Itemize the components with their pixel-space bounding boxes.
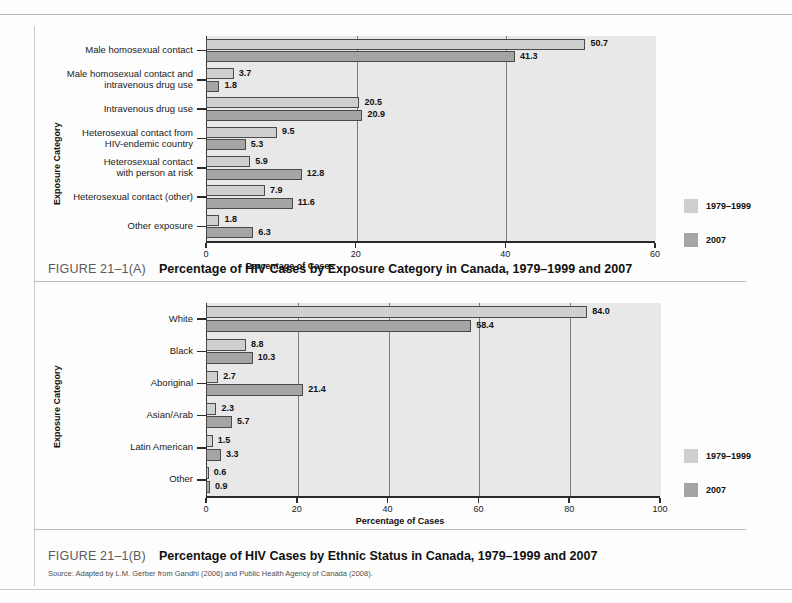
bar-value-figure-b-s0-c3: 2.3 bbox=[221, 403, 234, 413]
category-label-figure-b-0: White bbox=[46, 313, 193, 324]
gridline-60 bbox=[479, 303, 480, 496]
category-tick-figure-b-4 bbox=[197, 447, 206, 449]
figure-page: 50.73.720.59.55.97.91.841.31.820.95.312.… bbox=[0, 0, 792, 603]
bar-figure-b-s0-c1 bbox=[206, 339, 246, 351]
bar-value-figure-b-s0-c0: 84.0 bbox=[592, 306, 610, 316]
figure-b-caption: FIGURE 21–1(B)Percentage of HIV Cases by… bbox=[48, 546, 597, 564]
bar-figure-b-s1-c2 bbox=[206, 384, 303, 396]
figure-b-separator bbox=[34, 529, 746, 530]
category-tick-figure-b-5 bbox=[197, 479, 206, 481]
legend-label-figure-b-1: 2007 bbox=[706, 485, 726, 495]
bar-figure-b-s1-c4 bbox=[206, 449, 221, 461]
x-tick-figure-b-60 bbox=[478, 498, 480, 503]
x-axis-title-figure-b: Percentage of Cases bbox=[356, 516, 445, 526]
bar-value-figure-b-s0-c4: 1.5 bbox=[218, 435, 231, 445]
category-label-figure-b-1: Black bbox=[46, 345, 193, 356]
plot-area-figure-b bbox=[206, 303, 661, 496]
bar-value-figure-b-s1-c5: 0.9 bbox=[215, 481, 228, 491]
x-tick-label-figure-b-0: 0 bbox=[203, 504, 208, 514]
bar-figure-b-s0-c4 bbox=[206, 435, 213, 447]
x-tick-label-figure-b-20: 20 bbox=[292, 504, 302, 514]
x-tick-figure-b-20 bbox=[296, 498, 298, 503]
x-tick-label-figure-b-60: 60 bbox=[473, 504, 483, 514]
bar-value-figure-b-s0-c5: 0.6 bbox=[214, 467, 227, 477]
x-tick-figure-b-80 bbox=[568, 498, 570, 503]
bar-figure-b-s1-c3 bbox=[206, 416, 232, 428]
x-tick-label-figure-b-100: 100 bbox=[652, 504, 667, 514]
bar-figure-b-s0-c0 bbox=[206, 306, 587, 318]
gridline-40 bbox=[389, 303, 390, 496]
bar-figure-b-s0-c5 bbox=[206, 467, 209, 479]
bar-figure-b-s1-c0 bbox=[206, 320, 471, 332]
category-label-figure-b-3: Asian/Arab bbox=[46, 409, 193, 420]
category-tick-figure-b-1 bbox=[197, 351, 206, 353]
figure-b-title: Percentage of HIV Cases by Ethnic Status… bbox=[159, 549, 597, 563]
figure-b-number: FIGURE 21–1(B) bbox=[48, 549, 146, 563]
category-label-figure-b-4: Latin American bbox=[46, 441, 193, 452]
bar-value-figure-b-s0-c2: 2.7 bbox=[223, 371, 236, 381]
bar-figure-b-s0-c3 bbox=[206, 403, 216, 415]
category-tick-figure-b-0 bbox=[197, 318, 206, 320]
figure-21-1-b: 84.08.82.72.31.50.658.410.321.45.73.30.9… bbox=[0, 0, 792, 603]
y-axis-title-figure-b: Exposure Category bbox=[52, 365, 62, 448]
bar-value-figure-b-s1-c0: 58.4 bbox=[476, 320, 494, 330]
x-tick-label-figure-b-40: 40 bbox=[383, 504, 393, 514]
x-tick-label-figure-b-80: 80 bbox=[564, 504, 574, 514]
category-tick-figure-b-2 bbox=[197, 383, 206, 385]
source-note: Source: Adapted by L.M. Gerber from Gand… bbox=[48, 569, 373, 578]
legend-label-figure-b-0: 1979–1999 bbox=[706, 451, 751, 461]
bar-figure-b-s0-c2 bbox=[206, 371, 218, 383]
gridline-20 bbox=[298, 303, 299, 496]
bar-figure-b-s1-c1 bbox=[206, 352, 253, 364]
legend-swatch-icon-figure-b-0 bbox=[684, 449, 698, 463]
bar-value-figure-b-s0-c1: 8.8 bbox=[251, 339, 264, 349]
category-label-figure-b-5: Other bbox=[46, 473, 193, 484]
bar-figure-b-s1-c5 bbox=[206, 481, 210, 493]
x-tick-figure-b-100 bbox=[659, 498, 661, 503]
gridline-80 bbox=[570, 303, 571, 496]
bar-value-figure-b-s1-c1: 10.3 bbox=[258, 352, 276, 362]
bar-value-figure-b-s1-c3: 5.7 bbox=[237, 416, 250, 426]
bar-value-figure-b-s1-c4: 3.3 bbox=[226, 449, 239, 459]
x-axis-line-figure-b bbox=[206, 496, 660, 498]
x-tick-figure-b-0 bbox=[205, 498, 207, 503]
legend-swatch-icon-figure-b-1 bbox=[684, 483, 698, 497]
bar-value-figure-b-s1-c2: 21.4 bbox=[308, 384, 326, 394]
category-tick-figure-b-3 bbox=[197, 415, 206, 417]
category-label-figure-b-2: Aboriginal bbox=[46, 377, 193, 388]
x-tick-figure-b-40 bbox=[387, 498, 389, 503]
